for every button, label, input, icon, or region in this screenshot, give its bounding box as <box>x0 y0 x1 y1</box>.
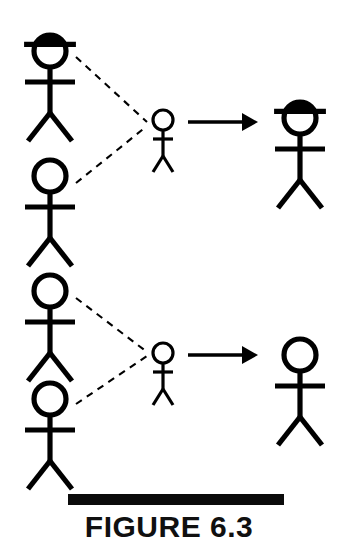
figure-root: FIGURE 6.3 <box>0 0 338 549</box>
figure-head <box>153 343 173 363</box>
figure-head <box>34 275 66 307</box>
caption-rule-bar <box>68 494 284 505</box>
figure-head <box>284 339 316 371</box>
figure-head <box>34 160 66 192</box>
figure-illustration <box>0 0 338 549</box>
figure-caption: FIGURE 6.3 <box>0 509 338 545</box>
figure-head <box>153 110 173 130</box>
figure-head <box>34 383 66 415</box>
